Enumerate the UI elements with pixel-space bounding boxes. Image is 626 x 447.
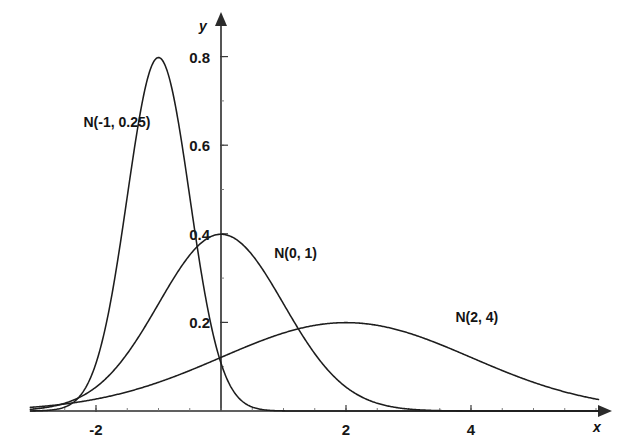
curve-annotations: N(-1, 0.25)N(0, 1)N(2, 4) bbox=[84, 114, 499, 325]
x-axis-tick-label: -2 bbox=[89, 421, 102, 438]
y-axis-tick-label: 0.2 bbox=[189, 314, 210, 331]
distribution-curve bbox=[30, 58, 598, 411]
curve-label: N(0, 1) bbox=[274, 245, 317, 261]
y-axis-tick-label: 0.4 bbox=[189, 226, 211, 243]
x-axis-tick-label: 4 bbox=[467, 421, 476, 438]
distribution-curves bbox=[30, 58, 598, 411]
chart-canvas: -224 0.20.40.60.8 N(-1, 0.25)N(0, 1)N(2,… bbox=[0, 0, 626, 447]
normal-distribution-chart: -224 0.20.40.60.8 N(-1, 0.25)N(0, 1)N(2,… bbox=[0, 0, 626, 447]
y-axis-tick-label: 0.6 bbox=[189, 137, 210, 154]
y-axis-arrow-icon bbox=[215, 12, 227, 26]
axes-group bbox=[30, 12, 612, 417]
curve-label: N(2, 4) bbox=[455, 309, 498, 325]
y-axis-label: y bbox=[198, 18, 208, 34]
x-axis-arrow-icon bbox=[598, 405, 612, 417]
distribution-curve bbox=[30, 323, 598, 408]
y-axis-tick-label: 0.8 bbox=[189, 49, 210, 66]
x-axis-label: x bbox=[592, 419, 602, 435]
x-tick-labels: -224 bbox=[89, 421, 476, 438]
curve-label: N(-1, 0.25) bbox=[84, 114, 151, 130]
x-axis-tick-label: 2 bbox=[342, 421, 350, 438]
y-tick-labels: 0.20.40.60.8 bbox=[189, 49, 211, 332]
